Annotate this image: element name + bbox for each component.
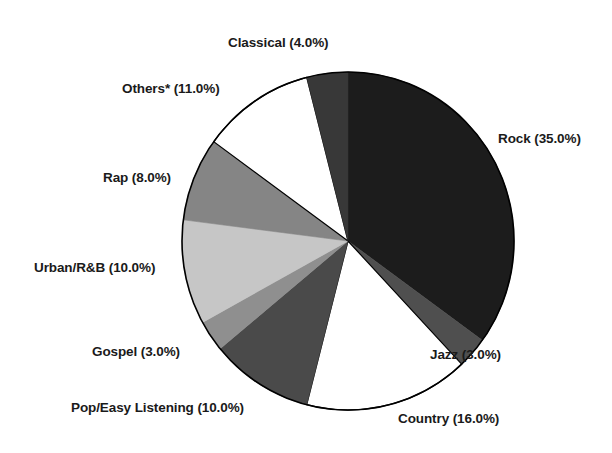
pie-label-rap: Rap (8.0%) (103, 171, 171, 185)
pie-chart-graphic (0, 0, 612, 453)
pie-label-rock: Rock (35.0%) (498, 132, 581, 146)
pie-label-gospel: Gospel (3.0%) (92, 345, 180, 359)
pie-label-pop-easy-listening: Pop/Easy Listening (10.0%) (71, 401, 244, 415)
pie-label-urban-rnb: Urban/R&B (10.0%) (34, 261, 155, 275)
pie-chart-figure: Classical (4.0%) Others* (11.0%) Rap (8.… (0, 0, 612, 453)
pie-label-country: Country (16.0%) (398, 412, 499, 426)
pie-label-classical: Classical (4.0%) (228, 36, 328, 50)
pie-label-jazz: Jazz (3.0%) (430, 348, 501, 362)
pie-label-others: Others* (11.0%) (122, 82, 220, 96)
